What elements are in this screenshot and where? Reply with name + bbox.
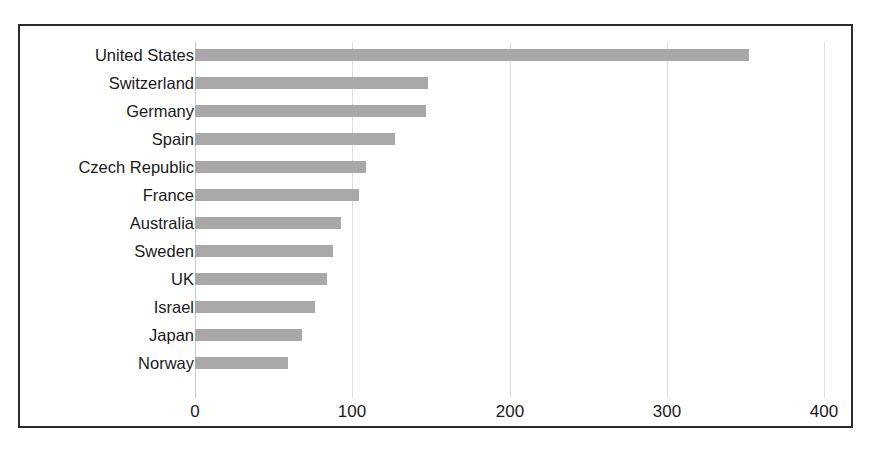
bar-row: France [20,181,851,209]
category-label: France [143,181,194,209]
bar[interactable] [195,189,359,201]
bar-row: Spain [20,125,851,153]
bar-row: Switzerland [20,69,851,97]
bar-row: Sweden [20,237,851,265]
category-label: Israel [154,293,194,321]
bar[interactable] [195,273,327,285]
bar[interactable] [195,329,302,341]
bar[interactable] [195,217,341,229]
x-tick-label-300: 300 [653,398,681,426]
bar-row: Germany [20,97,851,125]
category-label: Spain [152,125,194,153]
chart-frame: United StatesSwitzerlandGermanySpainCzec… [18,24,853,428]
bar[interactable] [195,77,428,89]
bar-row: Czech Republic [20,153,851,181]
category-label: UK [171,265,194,293]
bar-row: Japan [20,321,851,349]
x-tick-label-200: 200 [496,398,524,426]
category-label: Japan [149,321,194,349]
x-tick-label-100: 100 [338,398,366,426]
bar-row: United States [20,41,851,69]
bar[interactable] [195,161,366,173]
x-axis-tick-labels: 0100200300400 [20,398,851,426]
bar-row: UK [20,265,851,293]
bars-layer: United StatesSwitzerlandGermanySpainCzec… [20,26,851,426]
x-tick-label-0: 0 [190,398,199,426]
bar[interactable] [195,245,333,257]
bar-row: Israel [20,293,851,321]
category-label: United States [95,41,194,69]
category-label: Norway [138,349,194,377]
bar[interactable] [195,357,288,369]
category-label: Australia [130,209,194,237]
bar[interactable] [195,105,426,117]
bar[interactable] [195,301,315,313]
bar-row: Australia [20,209,851,237]
category-label: Sweden [134,237,194,265]
bar[interactable] [195,49,749,61]
chart-container: United StatesSwitzerlandGermanySpainCzec… [0,0,873,451]
category-label: Czech Republic [78,153,194,181]
category-label: Switzerland [109,69,194,97]
bar[interactable] [195,133,395,145]
x-tick-label-400: 400 [810,398,838,426]
plot-area: United StatesSwitzerlandGermanySpainCzec… [20,26,851,426]
category-label: Germany [126,97,194,125]
bar-row: Norway [20,349,851,377]
